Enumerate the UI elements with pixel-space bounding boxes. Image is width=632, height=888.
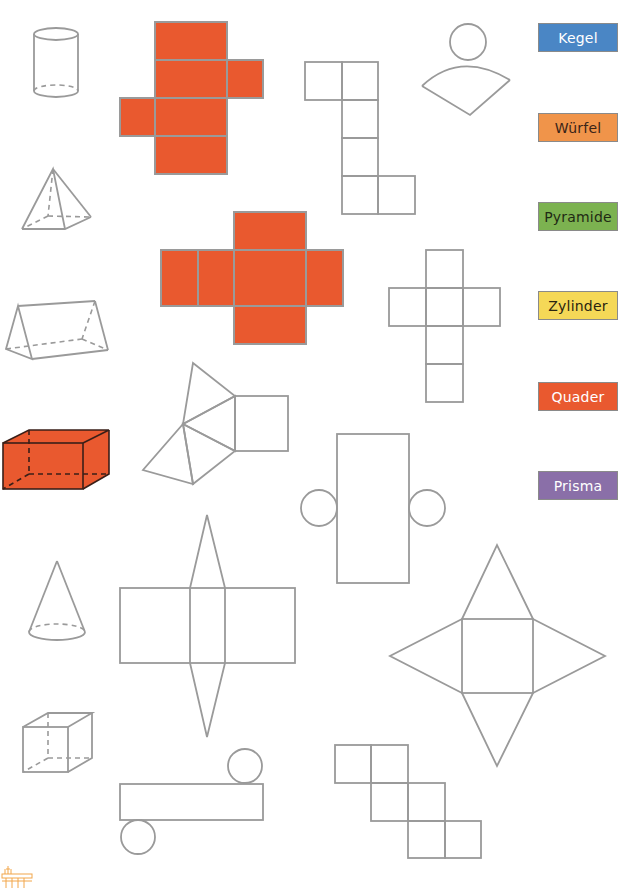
net-cylinder-vertical[interactable] xyxy=(301,434,445,583)
label-kegel[interactable]: Kegel xyxy=(538,23,618,52)
label-text: Kegel xyxy=(558,30,598,46)
net-cuboid-cross-colored[interactable] xyxy=(161,212,343,344)
net-cube-cross[interactable] xyxy=(389,250,500,402)
label-quader[interactable]: Quader xyxy=(538,382,618,411)
net-triangular-prism[interactable] xyxy=(120,515,295,737)
net-cone[interactable] xyxy=(422,24,510,115)
label-wuerfel[interactable]: Würfel xyxy=(538,113,618,142)
label-zylinder[interactable]: Zylinder xyxy=(538,291,618,320)
net-cylinder-horizontal[interactable] xyxy=(120,749,263,854)
net-cuboid-colored[interactable] xyxy=(120,22,263,174)
label-text: Würfel xyxy=(555,120,602,136)
solid-cuboid-highlighted[interactable] xyxy=(3,430,109,489)
label-text: Pyramide xyxy=(544,209,612,225)
solid-cylinder[interactable] xyxy=(34,28,78,97)
label-text: Zylinder xyxy=(548,298,607,314)
net-cube-staircase[interactable] xyxy=(335,745,481,858)
label-pyramide[interactable]: Pyramide xyxy=(538,202,618,231)
solid-cone[interactable] xyxy=(29,561,85,640)
solid-pyramid[interactable] xyxy=(22,169,91,229)
label-text: Quader xyxy=(552,389,605,405)
net-cube-hook[interactable] xyxy=(305,62,415,214)
label-prisma[interactable]: Prisma xyxy=(538,471,618,500)
net-square-pyramid[interactable] xyxy=(390,545,605,766)
net-triangles-square[interactable] xyxy=(143,363,288,484)
solid-triangular-prism[interactable] xyxy=(6,301,108,359)
publisher-logo-icon xyxy=(0,860,34,888)
solid-cube[interactable] xyxy=(23,713,92,772)
label-text: Prisma xyxy=(554,478,603,494)
